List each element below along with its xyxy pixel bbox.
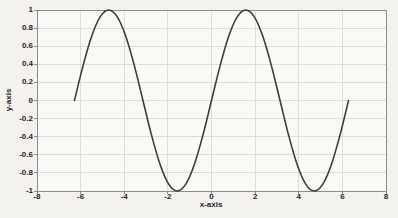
y-tick-label: -0.4 bbox=[0, 133, 33, 141]
chart-svg bbox=[0, 0, 398, 218]
chart-area: x-axis y-axis -8-6-4-20246810.80.60.40.2… bbox=[0, 0, 398, 218]
x-tick-label: -2 bbox=[164, 193, 171, 201]
x-tick-label: 2 bbox=[253, 193, 257, 201]
y-tick-label: -0.8 bbox=[0, 169, 33, 177]
y-tick-label: 1 bbox=[0, 6, 33, 14]
x-tick-label: 6 bbox=[340, 193, 344, 201]
x-tick-label: 8 bbox=[384, 193, 388, 201]
y-tick-label: 0.8 bbox=[0, 24, 33, 32]
y-tick-label: 0.6 bbox=[0, 42, 33, 50]
x-tick-label: 0 bbox=[209, 193, 213, 201]
y-tick-label: 0.4 bbox=[0, 60, 33, 68]
y-tick-label: 0 bbox=[0, 97, 33, 105]
x-tick-label: 4 bbox=[297, 193, 301, 201]
y-tick-label: -1 bbox=[0, 187, 33, 195]
x-tick-label: -8 bbox=[33, 193, 40, 201]
x-tick-label: -4 bbox=[121, 193, 128, 201]
y-tick-label: -0.2 bbox=[0, 115, 33, 123]
y-tick-label: 0.2 bbox=[0, 78, 33, 86]
figure: x-axis y-axis -8-6-4-20246810.80.60.40.2… bbox=[0, 0, 398, 218]
y-tick-label: -0.6 bbox=[0, 151, 33, 159]
x-tick-label: -6 bbox=[77, 193, 84, 201]
